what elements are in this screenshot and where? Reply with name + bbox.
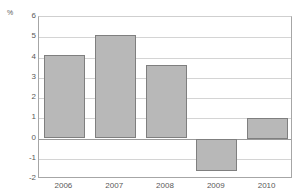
y-axis-tick-label: -1 [6, 154, 36, 162]
x-axis-tick-label: 2007 [89, 181, 140, 190]
x-axis-tick-label: 2006 [38, 181, 89, 190]
y-axis-tick-label: -2 [6, 174, 36, 182]
bar-2006 [44, 55, 85, 138]
y-axis-tick-label: 5 [6, 32, 36, 40]
bar-2008 [146, 65, 187, 139]
y-axis-tick-label: 0 [6, 134, 36, 142]
y-axis-tick-label: 3 [6, 73, 36, 81]
x-axis-tick-label: 2009 [190, 181, 241, 190]
bar-2007 [95, 35, 136, 138]
plot-area [38, 16, 292, 178]
gridline [39, 37, 291, 38]
y-axis-tick-label: 6 [6, 12, 36, 20]
bar-2009 [196, 139, 237, 171]
bar-2010 [247, 118, 288, 138]
y-axis-tick-label: 4 [6, 53, 36, 61]
gridline [39, 139, 291, 140]
y-axis-tick-label: 1 [6, 113, 36, 121]
x-axis-tick-label: 2008 [140, 181, 191, 190]
gridline [39, 159, 291, 160]
y-axis-tick-label: 2 [6, 93, 36, 101]
bar-chart: % 6543210-1-2 20062007200820092010 [0, 0, 302, 195]
x-axis-tick-label: 2010 [241, 181, 292, 190]
